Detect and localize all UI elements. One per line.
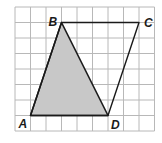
label-c: C (144, 16, 153, 30)
label-a: A (18, 117, 28, 131)
grid-diagram: A B C D (0, 0, 162, 143)
label-d: D (111, 118, 120, 132)
label-b: B (49, 15, 58, 29)
